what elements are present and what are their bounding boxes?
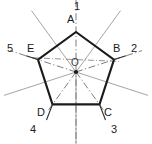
vertex-label-A: A [67,14,74,25]
center-label-O: O [71,57,79,68]
vertex-label-D: D [37,107,45,118]
number-label-1: 1 [74,1,80,12]
vertex-label-B: B [113,43,120,54]
tick-D [47,104,53,120]
number-label-5: 5 [7,43,13,54]
vertex-label-E: E [27,43,34,54]
vertex-label-C: C [104,107,112,118]
tick-B [114,56,126,60]
ray-mid-DE [4,72,76,95]
ray-mid-BC [76,72,148,95]
number-label-4: 4 [30,124,36,135]
pentagon-figure: A B C D E O 1 2 3 4 5 [0,0,152,144]
number-label-3: 3 [111,124,117,135]
pentagon-drawing-canvas [0,0,152,144]
axis-to-E [10,51,76,72]
number-label-2: 2 [131,43,137,54]
center-point-dot [74,70,78,74]
